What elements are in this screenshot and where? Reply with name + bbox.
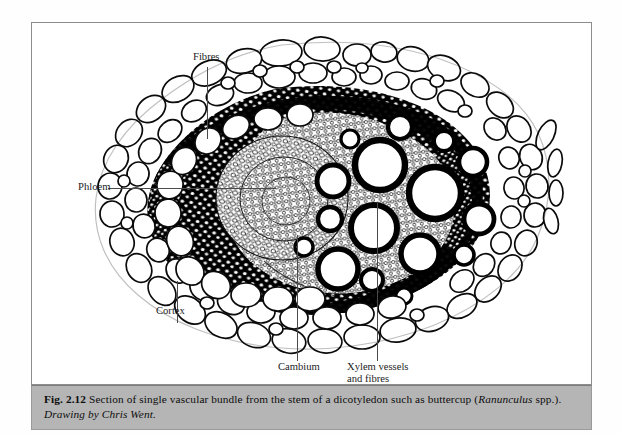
page-background: Fibres Phloem Cortex Cambium Xylem vesse…: [0, 0, 622, 434]
label-cortex-text: Cortex: [156, 305, 185, 316]
label-fibres: Fibres: [193, 51, 219, 63]
caption-body-after: spp.).: [533, 393, 562, 405]
caption-line-1: Fig. 2.12 Section of single vascular bun…: [44, 392, 581, 407]
caption-credit: Drawing by Chris Went.: [44, 407, 581, 422]
fibres-leader-line: [207, 67, 208, 139]
label-phloem: Phloem: [78, 181, 110, 193]
label-phloem-text: Phloem: [78, 181, 110, 192]
cambium-leader-line: [297, 235, 298, 361]
label-xylem: Xylem vessels and fibres: [347, 361, 409, 386]
stem-section-drawing: [32, 23, 592, 385]
label-xylem-line1: Xylem vessels: [347, 361, 409, 373]
stem-cross-section-illustration: [32, 23, 592, 385]
caption-body-before: Section of single vascular bundle from t…: [89, 393, 478, 405]
phloem-leader-line: [108, 188, 276, 189]
label-cortex: Cortex: [156, 305, 185, 317]
label-cambium: Cambium: [278, 361, 320, 373]
label-cambium-text: Cambium: [278, 361, 320, 372]
xylem-leader-line: [377, 203, 378, 361]
caption-genus: Ranunculus: [478, 393, 532, 405]
figure-frame: [31, 22, 592, 385]
label-xylem-line2: and fibres: [347, 373, 409, 385]
figure-caption: Fig. 2.12 Section of single vascular bun…: [31, 385, 592, 430]
caption-figure-number: Fig. 2.12: [44, 393, 86, 405]
label-fibres-text: Fibres: [193, 51, 219, 62]
